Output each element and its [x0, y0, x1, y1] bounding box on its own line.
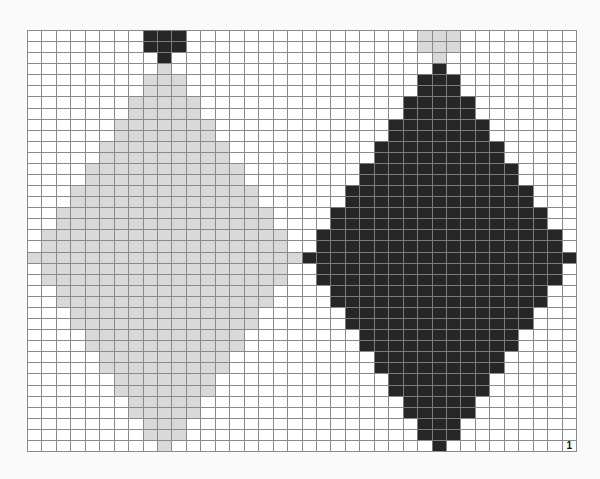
grid-cell-empty [302, 63, 316, 74]
grid-cell-empty [215, 373, 229, 384]
grid-cell-dark [417, 96, 431, 107]
grid-cell-dark [475, 329, 489, 340]
grid-cell-light [114, 163, 128, 174]
grid-cell-dark [518, 274, 532, 285]
grid-cell-dark [374, 174, 388, 185]
grid-cell-empty [27, 396, 41, 407]
grid-cell-empty [302, 274, 316, 285]
grid-cell-empty [403, 85, 417, 96]
grid-cell-light [128, 362, 142, 373]
grid-cell-light [143, 174, 157, 185]
grid-cell-empty [244, 396, 258, 407]
grid-cell-light [114, 263, 128, 274]
grid-cell-empty [359, 362, 373, 373]
grid-cell-empty [533, 429, 547, 440]
grid-cell-empty [359, 396, 373, 407]
grid-cell-light [143, 263, 157, 274]
grid-cell-empty [316, 418, 330, 429]
grid-cell-empty [388, 63, 402, 74]
grid-cell-light [171, 418, 185, 429]
grid-cell-empty [287, 263, 301, 274]
grid-cell-empty [258, 440, 272, 451]
grid-cell-empty [99, 385, 113, 396]
grid-cell-empty [273, 119, 287, 130]
grid-cell-empty [70, 362, 84, 373]
grid-cell-empty [56, 185, 70, 196]
grid-cell-empty [244, 85, 258, 96]
grid-cell-light [157, 63, 171, 74]
grid-cell-dark [475, 307, 489, 318]
grid-cell-light [171, 152, 185, 163]
grid-cell-dark [460, 174, 474, 185]
grid-cell-empty [229, 418, 243, 429]
grid-cell-light [128, 396, 142, 407]
grid-cell-empty [287, 85, 301, 96]
grid-cell-empty [302, 130, 316, 141]
grid-cell-empty [562, 296, 576, 307]
grid-cell-empty [41, 96, 55, 107]
grid-cell-empty [27, 318, 41, 329]
grid-cell-dark [446, 285, 460, 296]
grid-cell-light [114, 240, 128, 251]
grid-cell-light [99, 141, 113, 152]
grid-cell-dark [432, 240, 446, 251]
grid-cell-dark [432, 373, 446, 384]
grid-cell-empty [171, 52, 185, 63]
grid-cell-dark [504, 307, 518, 318]
grid-cell-empty [562, 307, 576, 318]
grid-cell-dark [460, 340, 474, 351]
grid-cell-light [200, 385, 214, 396]
grid-cell-empty [518, 30, 532, 41]
grid-cell-empty [114, 30, 128, 41]
grid-cell-light [128, 163, 142, 174]
grid-cell-dark [518, 240, 532, 251]
grid-cell-empty [287, 340, 301, 351]
grid-cell-empty [171, 440, 185, 451]
grid-cell-light [215, 185, 229, 196]
grid-cell-dark [432, 119, 446, 130]
grid-cell-empty [273, 163, 287, 174]
grid-cell-light [186, 373, 200, 384]
grid-cell-empty [302, 41, 316, 52]
grid-cell-light [85, 185, 99, 196]
grid-cell-empty [41, 440, 55, 451]
grid-cell-empty [316, 74, 330, 85]
grid-cell-light [143, 340, 157, 351]
grid-cell-light [56, 263, 70, 274]
grid-cell-empty [70, 108, 84, 119]
grid-cell-dark [475, 385, 489, 396]
grid-cell-empty [128, 74, 142, 85]
grid-cell-empty [229, 440, 243, 451]
grid-cell-empty [316, 351, 330, 362]
grid-cell-dark [475, 362, 489, 373]
grid-cell-light [229, 329, 243, 340]
grid-cell-empty [562, 229, 576, 240]
grid-cell-empty [518, 340, 532, 351]
grid-cell-empty [302, 340, 316, 351]
grid-cell-light [229, 229, 243, 240]
grid-cell-light [186, 196, 200, 207]
grid-cell-dark [432, 141, 446, 152]
grid-cell-empty [562, 196, 576, 207]
grid-cell-empty [70, 407, 84, 418]
grid-cell-light [128, 96, 142, 107]
grid-cell-empty [345, 418, 359, 429]
grid-cell-empty [302, 174, 316, 185]
grid-cell-light [114, 141, 128, 152]
grid-cell-empty [287, 30, 301, 41]
grid-cell-dark [417, 229, 431, 240]
grid-cell-dark [388, 318, 402, 329]
grid-cell-light [99, 351, 113, 362]
grid-cell-dark [330, 263, 344, 274]
grid-cell-light [85, 252, 99, 263]
grid-cell-empty [41, 318, 55, 329]
grid-cell-dark [417, 318, 431, 329]
grid-cell-light [114, 307, 128, 318]
grid-cell-empty [475, 440, 489, 451]
grid-cell-empty [229, 396, 243, 407]
grid-cell-empty [143, 52, 157, 63]
grid-cell-dark [446, 163, 460, 174]
grid-cell-dark [417, 385, 431, 396]
grid-cell-empty [258, 340, 272, 351]
grid-cell-dark [475, 185, 489, 196]
